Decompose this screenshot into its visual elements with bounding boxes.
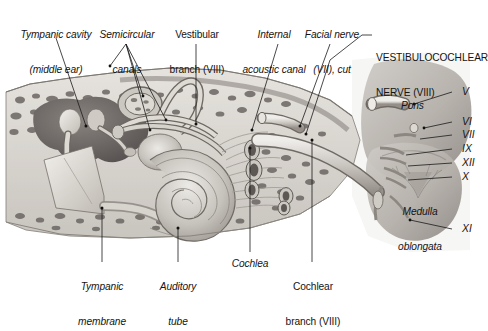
label-facial-nerve-line1: Facial nerve [296,29,368,41]
label-facial-nerve: Facial nerve (VII), cut [296,6,368,99]
label-facial-nerve-line2: (VII), cut [296,64,368,76]
label-pons: Pons [401,100,424,112]
label-cochlear-branch: Cochlear branch (VIII) [275,258,351,331]
cranial-nerve-x: X [462,171,469,182]
cranial-nerve-v: V [462,86,469,97]
label-vestibulocochlear-nerve-line1: VESTIBULOCOCHLEAR [376,52,482,64]
label-tympanic-membrane: Tympanic membrane [68,258,136,331]
label-cochlea: Cochlea [220,258,280,270]
label-cochlear-branch-line2: branch (VIII) [275,316,351,328]
cranial-nerve-vi: VI [462,116,472,127]
cranial-nerve-ix: IX [462,143,472,154]
label-auditory-tube: Auditory tube [146,258,210,331]
cranial-nerve-vii: VII [462,129,475,140]
label-vestibular-branch-line1: Vestibular [160,29,234,41]
label-medulla-oblongata-line1: Medulla [388,206,452,218]
label-auditory-tube-line2: tube [146,316,210,328]
label-vestibular-branch-line2: branch (VIII) [160,64,234,76]
label-semicircular-canals-line2: canals [91,64,163,76]
label-cochlear-branch-line1: Cochlear [275,281,351,293]
label-medulla-oblongata-line2: oblongata [388,241,452,253]
label-semicircular-canals: Semicircular canals [91,6,163,99]
label-tympanic-membrane-line1: Tympanic [68,281,136,293]
label-vestibulocochlear-nerve: VESTIBULOCOCHLEAR NERVE (VIII) [376,29,482,122]
cranial-nerve-xii: XII [462,157,475,168]
label-tympanic-membrane-line2: membrane [68,316,136,328]
label-vestibular-branch: Vestibular branch (VIII) [160,6,234,99]
label-auditory-tube-line1: Auditory [146,281,210,293]
label-semicircular-canals-line1: Semicircular [91,29,163,41]
label-medulla-oblongata: Medulla oblongata [388,183,452,276]
cranial-nerve-xi: XI [462,223,472,234]
